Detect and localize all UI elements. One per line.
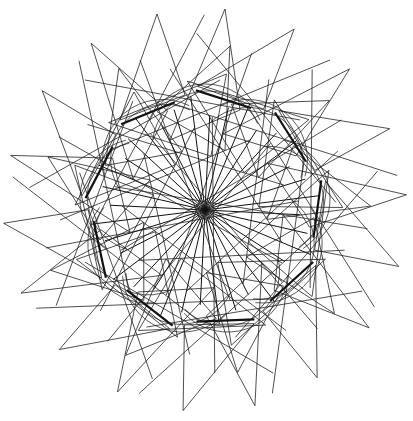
triangle-spike bbox=[183, 324, 254, 411]
thick-chord bbox=[197, 319, 255, 321]
crossing-line bbox=[139, 234, 315, 394]
spoke-line bbox=[205, 210, 282, 281]
triangle-spike bbox=[274, 215, 369, 328]
triangle-spike bbox=[267, 146, 371, 219]
crossing-line bbox=[100, 127, 194, 310]
generative-line-art bbox=[0, 0, 413, 421]
crossing-line bbox=[79, 61, 129, 293]
crossing-line bbox=[80, 173, 153, 379]
spoke-line bbox=[174, 110, 205, 210]
spoke-line bbox=[205, 179, 305, 210]
crossing-line bbox=[85, 262, 273, 373]
thick-chord bbox=[314, 180, 322, 237]
spoke-line bbox=[160, 210, 205, 316]
crossing-line bbox=[144, 154, 190, 355]
triangle-spike bbox=[315, 181, 399, 266]
triangle-spike bbox=[279, 111, 390, 171]
crossing-line bbox=[13, 177, 201, 323]
spoke-line bbox=[91, 210, 205, 224]
triangle-spike bbox=[170, 9, 240, 140]
arc-curve bbox=[103, 99, 190, 176]
triangle-spike bbox=[105, 68, 182, 165]
crossing-line bbox=[310, 69, 312, 288]
crossing-line bbox=[147, 291, 363, 327]
